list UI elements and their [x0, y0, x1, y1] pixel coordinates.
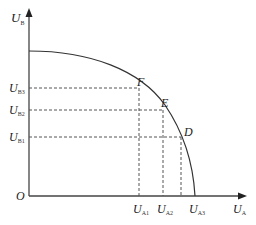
origin-label: O: [16, 189, 25, 203]
x-tick-a1: UA1: [133, 202, 149, 216]
y-axis-arrow-icon: [26, 8, 33, 17]
y-tick-b1: UB1: [9, 130, 25, 144]
utility-possibility-curve: [29, 51, 195, 196]
y-tick-b2: UB2: [9, 103, 25, 117]
x-tick-a3: UA3: [189, 202, 205, 216]
point-d-label: D: [183, 125, 193, 139]
x-tick-a2: UA2: [157, 202, 173, 216]
x-axis-label: UA: [233, 202, 247, 216]
point-e-label: E: [160, 96, 169, 110]
utility-frontier-diagram: UB UB3 UB2 UB1 O UA1 UA2 UA3 UA F E D: [0, 0, 256, 225]
x-axis-arrow-icon: [238, 193, 247, 200]
y-tick-b3: UB3: [9, 81, 25, 95]
y-axis-label: UB: [11, 10, 24, 26]
point-f-label: F: [136, 75, 145, 89]
